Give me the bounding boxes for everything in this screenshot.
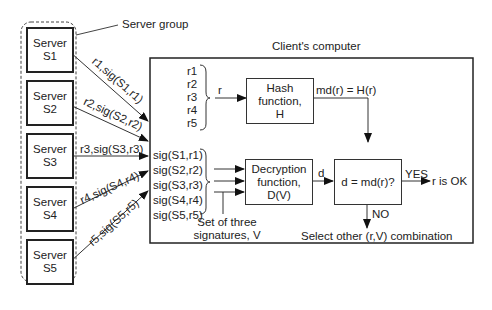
compare-box: d = md(r)? [334, 159, 402, 205]
server-label: Server [33, 249, 67, 262]
server-s1: Server S1 [26, 27, 74, 73]
server-label: Server [33, 37, 67, 50]
server-id: S2 [43, 103, 57, 116]
hash-line1: Hash [267, 82, 294, 95]
server-s4: Server S4 [26, 186, 74, 232]
compare-text: d = md(r)? [341, 176, 394, 189]
signature: sig(S3,r3) [153, 179, 203, 192]
message-s3: r3,sig(S3,r3) [80, 143, 143, 155]
decrypt-line1: Decryption [252, 163, 307, 176]
hash-function-box: Hash function, H [246, 78, 314, 124]
decrypt-line3: D(V) [267, 189, 291, 202]
r-value: r1 [187, 65, 197, 78]
no-result: Select other (r,V) combination [301, 230, 453, 243]
signature: sig(S1,r1) [153, 149, 203, 162]
signature: sig(S2,r2) [153, 164, 203, 177]
r-value: r4 [187, 104, 197, 117]
server-id: S5 [43, 262, 57, 275]
server-group-label: Server group [122, 18, 188, 31]
signature-set-label: Set of three signatures, V [190, 216, 264, 242]
server-label: Server [33, 90, 67, 103]
hash-line2: function, [258, 95, 301, 108]
server-s5: Server S5 [26, 239, 74, 285]
no-label: NO [372, 208, 389, 221]
decrypt-line2: function, [257, 176, 300, 189]
client-title: Client's computer [272, 40, 360, 53]
server-s2: Server S2 [26, 80, 74, 126]
hash-output-label: md(r) = H(r) [316, 84, 376, 97]
r-value: r5 [187, 117, 197, 130]
decryption-function-box: Decryption function, D(V) [245, 159, 313, 205]
set-line1: Set of three [190, 216, 264, 229]
r-value: r2 [187, 78, 197, 91]
server-label: Server [33, 143, 67, 156]
server-id: S1 [43, 50, 57, 63]
decrypt-output-label: d [318, 167, 324, 180]
server-id: S3 [43, 156, 57, 169]
r-arrow-label: r [218, 84, 222, 97]
hash-line3: H [276, 108, 284, 121]
set-line2: signatures, V [190, 229, 264, 242]
r-value: r3 [187, 91, 197, 104]
yes-result: r is OK [432, 175, 467, 188]
server-label: Server [33, 196, 67, 209]
signature: sig(S4,r4) [153, 194, 203, 207]
yes-label: YES [405, 168, 428, 181]
server-id: S4 [43, 209, 57, 222]
server-s3: Server S3 [26, 133, 74, 179]
